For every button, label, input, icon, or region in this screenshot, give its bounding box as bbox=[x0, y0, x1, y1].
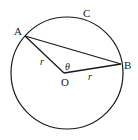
angle-theta-label: θ bbox=[65, 61, 70, 72]
radius-left-label: r bbox=[40, 56, 44, 67]
point-b-label: B bbox=[124, 59, 131, 71]
circle-diagram: A B O C r r θ bbox=[0, 0, 138, 140]
segment-ob bbox=[64, 64, 121, 73]
point-a-label: A bbox=[14, 25, 22, 37]
circle-c-label: C bbox=[83, 7, 90, 19]
point-o-label: O bbox=[61, 76, 69, 88]
radius-right-label: r bbox=[88, 71, 92, 82]
